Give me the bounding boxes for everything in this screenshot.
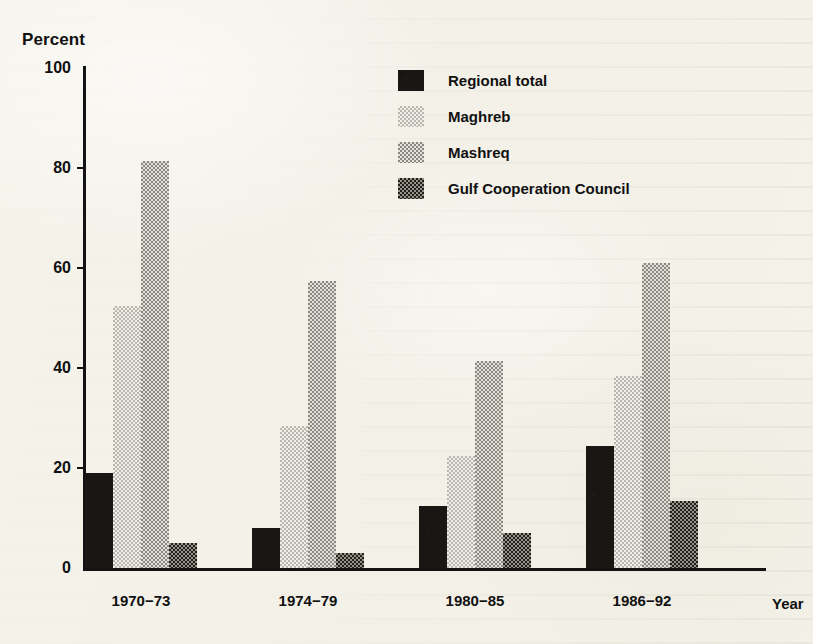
legend-item: Gulf Cooperation Council: [398, 170, 630, 206]
bar: [642, 263, 670, 568]
legend-swatch: [398, 106, 424, 127]
bar: [336, 553, 364, 568]
bar: [447, 456, 475, 569]
bar: [280, 426, 308, 569]
legend-label: Regional total: [448, 72, 547, 89]
bar: [614, 376, 642, 569]
legend-item: Regional total: [398, 62, 630, 98]
chart-legend: Regional totalMaghrebMashreqGulf Coopera…: [398, 62, 630, 206]
legend-item: Mashreq: [398, 134, 630, 170]
bar: [141, 161, 169, 569]
legend-swatch: [398, 142, 424, 163]
legend-swatch: [398, 178, 424, 199]
bar-chart-figure: Percent Year 020406080100 1970−731974−79…: [0, 0, 813, 644]
bar: [252, 528, 280, 568]
legend-label: Mashreq: [448, 144, 510, 161]
bar: [308, 281, 336, 569]
bar: [419, 506, 447, 569]
legend-swatch: [398, 70, 424, 91]
legend-label: Gulf Cooperation Council: [448, 180, 630, 197]
bar: [113, 306, 141, 569]
bar: [503, 533, 531, 568]
bar: [475, 361, 503, 569]
bar: [85, 473, 113, 568]
bar: [586, 446, 614, 569]
legend-label: Maghreb: [448, 108, 511, 125]
legend-item: Maghreb: [398, 98, 630, 134]
bar: [670, 501, 698, 569]
bar: [169, 543, 197, 568]
